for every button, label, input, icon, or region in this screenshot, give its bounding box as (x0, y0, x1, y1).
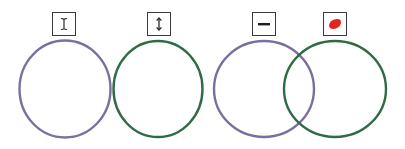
circles-layer (0, 0, 405, 149)
green-circle-left (114, 41, 203, 137)
purple-circle-left (20, 41, 111, 138)
diagram-canvas (0, 0, 405, 149)
green-circle-right (284, 41, 386, 137)
